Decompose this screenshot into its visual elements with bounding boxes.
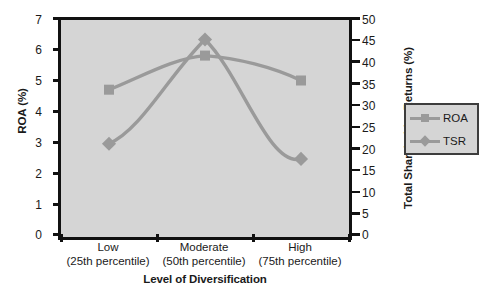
y-left-tick-label-7: 7 bbox=[22, 14, 42, 26]
y-left-tick-label-0: 0 bbox=[22, 229, 42, 241]
y-left-tick-label-1: 1 bbox=[22, 199, 42, 211]
diamond-marker-icon bbox=[410, 134, 440, 148]
tsr-marker-low bbox=[102, 137, 116, 151]
y-right-tick-label-40: 40 bbox=[362, 57, 384, 69]
y-right-tick-label-45: 45 bbox=[362, 35, 384, 47]
y-right-tick-5 bbox=[352, 212, 360, 215]
y-right-tick-20 bbox=[352, 147, 360, 150]
y-right-tick-45 bbox=[352, 39, 360, 42]
legend-label-tsr: TSR bbox=[443, 135, 466, 147]
y-right-tick-label-10: 10 bbox=[362, 187, 384, 199]
y-right-tick-label-15: 15 bbox=[362, 165, 384, 177]
y-right-tick-40 bbox=[352, 60, 360, 63]
y-right-tick-label-50: 50 bbox=[362, 14, 384, 26]
y-right-tick-30 bbox=[352, 104, 360, 107]
x-category-sub-high: (75th percentile) bbox=[240, 254, 360, 268]
roa-line bbox=[109, 56, 301, 90]
y-right-tick-25 bbox=[352, 126, 360, 129]
y-right-tick-label-25: 25 bbox=[362, 122, 384, 134]
y-right-tick-label-20: 20 bbox=[362, 144, 384, 156]
legend-item-roa[interactable]: ROA bbox=[406, 107, 477, 129]
x-category-main-moderate: Moderate bbox=[180, 241, 229, 253]
y-right-tick-label-35: 35 bbox=[362, 79, 384, 91]
roa-marker-low bbox=[104, 85, 114, 95]
legend-item-tsr[interactable]: TSR bbox=[406, 130, 477, 152]
legend-label-roa: ROA bbox=[443, 112, 468, 124]
x-category-main-high: High bbox=[288, 241, 312, 253]
square-marker-icon bbox=[410, 111, 440, 125]
y-right-tick-label-30: 30 bbox=[362, 100, 384, 112]
y-left-tick-label-6: 6 bbox=[22, 44, 42, 56]
x-axis-title: Level of Diversification bbox=[61, 273, 349, 285]
chart-legend: ROA TSR bbox=[404, 103, 479, 155]
y-right-tick-label-5: 5 bbox=[362, 208, 384, 220]
roa-marker-high bbox=[296, 76, 306, 86]
y-left-tick-label-5: 5 bbox=[22, 75, 42, 87]
x-category-label-high: High (75th percentile) bbox=[240, 240, 360, 268]
series-canvas bbox=[61, 20, 349, 237]
chart-figure: ROA (%) Total Shareholder Returns (%) 7 … bbox=[0, 0, 491, 296]
y-right-tick-label-0: 0 bbox=[362, 229, 384, 241]
y-left-tick-label-3: 3 bbox=[22, 137, 42, 149]
tsr-marker-high bbox=[294, 152, 308, 166]
y-right-tick-0 bbox=[352, 233, 360, 236]
y-right-tick-15 bbox=[352, 169, 360, 172]
plot-area bbox=[61, 17, 349, 240]
y-right-tick-35 bbox=[352, 82, 360, 85]
y-left-tick-label-2: 2 bbox=[22, 168, 42, 180]
roa-marker-moderate bbox=[200, 51, 210, 61]
y-right-tick-10 bbox=[352, 191, 360, 194]
y-left-tick-label-4: 4 bbox=[22, 106, 42, 118]
x-category-main-low: Low bbox=[97, 241, 118, 253]
y-right-tick-50 bbox=[352, 17, 360, 20]
